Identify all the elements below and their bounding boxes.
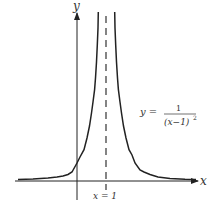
asymptote-label: x = 1: [93, 191, 117, 201]
y-axis-label: y: [72, 0, 80, 13]
x-axis-label: x: [200, 174, 207, 188]
curve-left-branch: [18, 12, 98, 180]
curve-right-branch: [115, 12, 196, 180]
graph-figure: y x x = 1 y = 1 (x−1) 2: [0, 0, 214, 215]
equation-numerator: 1: [176, 104, 181, 113]
equation-exponent: 2: [193, 114, 197, 121]
equation-lhs: y =: [139, 106, 157, 117]
equation-denominator: (x−1): [164, 117, 190, 127]
